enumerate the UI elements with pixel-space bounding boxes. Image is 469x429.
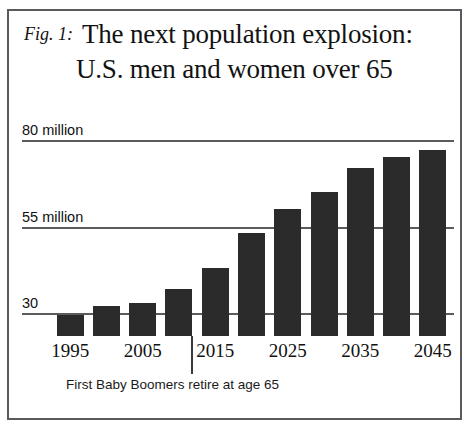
x-axis-label-2045: 2045 — [398, 340, 468, 362]
y-axis-label-80: 80 million — [22, 122, 83, 138]
x-axis-label-1995: 1995 — [35, 340, 105, 362]
x-axis-label-2025: 2025 — [253, 340, 323, 362]
y-axis-label-55: 55 million — [22, 209, 83, 225]
y-axis-label-30: 30 — [22, 295, 38, 311]
plot-area: 3055 million80 million199520052015202520… — [0, 0, 469, 429]
bar-2025 — [274, 209, 301, 336]
bar-1995 — [57, 315, 84, 336]
bar-2020 — [238, 233, 265, 336]
x-axis-label-2035: 2035 — [325, 340, 395, 362]
bar-2035 — [347, 168, 374, 336]
bar-2010 — [165, 289, 192, 336]
bar-2005 — [129, 303, 156, 336]
bar-2045 — [419, 150, 446, 336]
annotation-pointer-line — [191, 336, 193, 374]
bar-2030 — [311, 192, 338, 336]
annotation-caption: First Baby Boomers retire at age 65 — [66, 377, 279, 392]
bar-2015 — [202, 268, 229, 336]
bar-2040 — [383, 157, 410, 336]
gridline-80-million — [22, 140, 454, 142]
chart-figure-page: Fig. 1:The next population explosion: U.… — [0, 0, 469, 429]
x-axis-label-2005: 2005 — [108, 340, 178, 362]
bar-2000 — [93, 306, 120, 336]
